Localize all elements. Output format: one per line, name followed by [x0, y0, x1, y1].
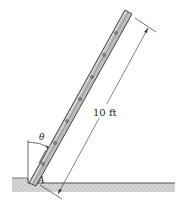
ladder [29, 10, 132, 186]
diagram-svg: 10 ft θ A [0, 0, 187, 213]
ladder-diagram: 10 ft θ A [0, 0, 187, 213]
point-a-label: A [37, 175, 45, 185]
length-label: 10 ft [93, 107, 117, 118]
angle-label: θ [39, 132, 45, 142]
